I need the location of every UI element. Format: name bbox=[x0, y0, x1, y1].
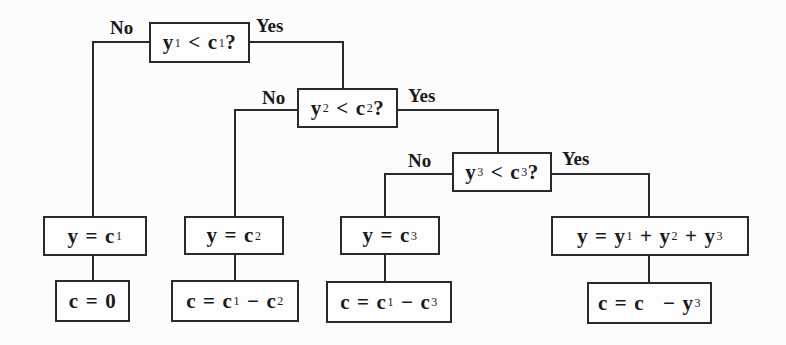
o4y-t2: y bbox=[659, 224, 670, 249]
outcome-4-c-box: c = c − y3 bbox=[587, 282, 712, 324]
o2c-t2: c bbox=[266, 289, 276, 314]
o3c-eq: = bbox=[357, 290, 369, 315]
o4y-op1: + bbox=[640, 224, 652, 249]
o1y-lhs: y bbox=[68, 224, 79, 249]
o4c-lhs: c bbox=[598, 291, 608, 316]
o1y-eq: = bbox=[86, 224, 98, 249]
d3-yes-connector-v bbox=[648, 173, 650, 217]
d3-operator: < bbox=[491, 160, 503, 185]
o3y-lhs: y bbox=[363, 223, 374, 248]
o4c-t1: c bbox=[634, 291, 644, 316]
o1y-t1: c bbox=[105, 224, 115, 249]
d1-no-connector-h bbox=[92, 41, 150, 43]
o3c-lhs: c bbox=[340, 290, 350, 315]
o3c-t1: c bbox=[377, 290, 387, 315]
o4y-eq: = bbox=[595, 224, 607, 249]
o2c-t1: c bbox=[223, 289, 233, 314]
d1-yes-label: Yes bbox=[256, 16, 283, 36]
d2-no-connector-h bbox=[234, 109, 298, 111]
o3-link bbox=[384, 254, 386, 282]
d3-var: y bbox=[465, 160, 476, 185]
o4y-t3: y bbox=[704, 224, 715, 249]
d2-no-connector-v bbox=[234, 109, 236, 217]
o2c-eq: = bbox=[203, 289, 215, 314]
outcome-3-y-box: y = c3 bbox=[340, 216, 440, 255]
o3y-t1: c bbox=[400, 223, 410, 248]
d1-const: c bbox=[208, 30, 218, 55]
decision-box-1: y1 < c1? bbox=[149, 22, 250, 63]
outcome-1-c-box: c = 0 bbox=[55, 280, 130, 322]
d3-no-label: No bbox=[408, 151, 431, 171]
o4c-eq: = bbox=[615, 291, 627, 316]
o4c-op1: − bbox=[663, 291, 675, 316]
o3y-eq: = bbox=[381, 223, 393, 248]
o1c-eq: = bbox=[86, 289, 98, 314]
d3-yes-label: Yes bbox=[562, 149, 589, 169]
d3-const: c bbox=[510, 160, 520, 185]
d3-no-connector-h bbox=[384, 173, 453, 175]
o4y-t1: y bbox=[615, 224, 626, 249]
o2y-eq: = bbox=[225, 223, 237, 248]
o3c-op1: − bbox=[401, 290, 413, 315]
o4y-lhs: y bbox=[577, 224, 588, 249]
outcome-3-c-box: c = c1 − c3 bbox=[326, 281, 452, 323]
d1-operator: < bbox=[188, 30, 200, 55]
o4y-op2: + bbox=[685, 224, 697, 249]
d2-yes-label: Yes bbox=[408, 86, 435, 106]
o2c-lhs: c bbox=[186, 289, 196, 314]
d2-operator: < bbox=[336, 96, 348, 121]
o2c-op1: − bbox=[247, 289, 259, 314]
o1c-lhs: c bbox=[69, 289, 79, 314]
decision-tree-diagram: No Yes No Yes No Yes y1 < c1? y2 < c2? y… bbox=[0, 0, 786, 345]
outcome-4-y-box: y = y1 + y2 + y3 bbox=[551, 216, 749, 256]
d1-yes-connector-h bbox=[248, 41, 344, 43]
d1-question: ? bbox=[225, 30, 236, 55]
decision-box-3: y3 < c3? bbox=[452, 152, 552, 192]
o2y-lhs: y bbox=[207, 223, 218, 248]
d2-var: y bbox=[311, 96, 322, 121]
o1-link bbox=[92, 255, 94, 281]
d2-yes-connector-h bbox=[396, 109, 499, 111]
d1-no-connector-v bbox=[92, 41, 94, 217]
o3c-t2: c bbox=[420, 290, 430, 315]
d1-yes-connector-v bbox=[342, 41, 344, 89]
o1c-t1: 0 bbox=[105, 289, 116, 314]
o2-link bbox=[234, 254, 236, 281]
d1-no-label: No bbox=[110, 18, 133, 38]
d3-no-connector-v bbox=[384, 173, 386, 217]
d2-const: c bbox=[356, 96, 366, 121]
decision-box-2: y2 < c2? bbox=[297, 88, 398, 128]
d3-yes-connector-h bbox=[550, 173, 650, 175]
d2-no-label: No bbox=[262, 88, 285, 108]
o4c-t2: y bbox=[683, 291, 694, 316]
o2y-t1: c bbox=[244, 223, 254, 248]
o4-link bbox=[648, 255, 650, 282]
outcome-2-y-box: y = c2 bbox=[184, 216, 284, 255]
outcome-2-c-box: c = c1 − c2 bbox=[171, 280, 299, 322]
d3-question: ? bbox=[528, 160, 539, 185]
d1-var: y bbox=[163, 30, 174, 55]
outcome-1-y-box: y = c1 bbox=[43, 216, 147, 256]
d2-yes-connector-v bbox=[497, 109, 499, 153]
d2-question: ? bbox=[373, 96, 384, 121]
